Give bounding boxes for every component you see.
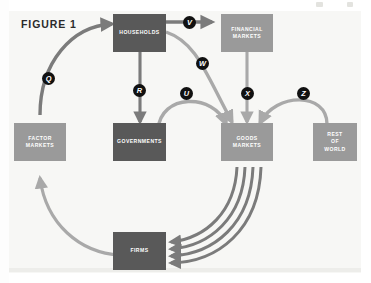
flow-badge-w: W xyxy=(196,57,209,70)
flow-path-governments-to-goods-markets xyxy=(158,101,226,130)
flow-path-rest-of-world-to-goods-markets xyxy=(260,100,327,124)
node-label-goods-markets: GOODSMARKETS xyxy=(233,135,261,150)
flow-path-firms-to-factor-markets xyxy=(40,178,120,255)
flow-badge-r: R xyxy=(133,84,146,97)
node-governments[interactable]: GOVERNMENTS xyxy=(113,123,166,161)
node-label-rest-of-world: RESTOFWORLD xyxy=(324,131,346,153)
flow-path-factor-markets-to-households xyxy=(40,24,112,115)
figure-diagram: FIGURE 1 HOUSEHOLDS FINANCIALMARKETS FAC… xyxy=(0,0,371,283)
flow-path-goods-markets-to-firms-3 xyxy=(171,167,253,256)
flow-badge-z: Z xyxy=(297,87,310,100)
figure-title: FIGURE 1 xyxy=(21,18,77,30)
flow-badge-v: V xyxy=(183,16,196,29)
node-goods-markets[interactable]: GOODSMARKETS xyxy=(221,123,273,161)
node-label-firms: FIRMS xyxy=(130,247,148,254)
flow-badge-x: X xyxy=(241,87,254,100)
flow-badge-label-u: U xyxy=(184,90,189,97)
node-rest-of-world[interactable]: RESTOFWORLD xyxy=(313,123,357,161)
node-label-factor-markets: FACTORMARKETS xyxy=(26,135,54,150)
node-label-households: HOUSEHOLDS xyxy=(119,29,159,36)
flow-badge-label-x: X xyxy=(245,90,250,97)
node-label-governments: GOVERNMENTS xyxy=(117,138,162,145)
node-firms[interactable]: FIRMS xyxy=(113,232,166,270)
flow-badge-label-v: V xyxy=(187,19,192,26)
node-label-financial-markets: FINANCIALMARKETS xyxy=(231,26,263,41)
flow-badge-label-w: W xyxy=(199,60,206,67)
flow-badge-label-r: R xyxy=(137,87,142,94)
node-households[interactable]: HOUSEHOLDS xyxy=(113,14,166,52)
node-factor-markets[interactable]: FACTORMARKETS xyxy=(14,123,66,161)
flow-path-goods-markets-to-firms-4 xyxy=(171,167,261,263)
node-financial-markets[interactable]: FINANCIALMARKETS xyxy=(221,14,273,52)
flow-badge-label-q: Q xyxy=(46,75,52,82)
flow-badge-label-z: Z xyxy=(301,90,306,97)
flow-badge-q: Q xyxy=(42,72,55,85)
flow-badge-u: U xyxy=(180,87,193,100)
